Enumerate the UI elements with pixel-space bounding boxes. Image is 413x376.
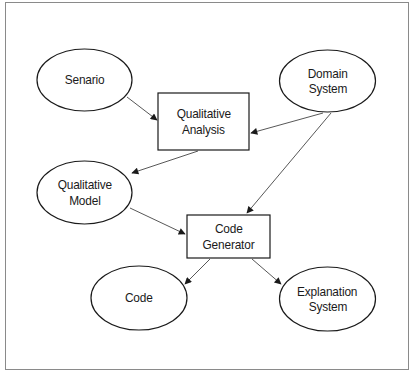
label-line: System bbox=[308, 81, 347, 97]
label-line: Domain bbox=[308, 66, 348, 82]
label-line: Analysis bbox=[182, 122, 225, 138]
label-line: System bbox=[308, 299, 347, 315]
label-senario: Senario bbox=[37, 49, 132, 111]
label-line: Senario bbox=[65, 72, 105, 88]
edge-model-to-generator bbox=[130, 208, 185, 234]
label-domain-system: Domain System bbox=[279, 50, 376, 112]
label-qualitative-model: Qualitative Model bbox=[37, 161, 132, 224]
label-line: Generator bbox=[203, 237, 255, 253]
label-line: Code bbox=[125, 290, 153, 306]
label-code-generator: Code Generator bbox=[187, 215, 270, 258]
edge-analysis-to-model bbox=[132, 151, 198, 173]
label-qualitative-analysis: Qualitative Analysis bbox=[158, 93, 249, 150]
label-line: Code bbox=[215, 221, 243, 237]
edge-domain-to-generator bbox=[247, 113, 331, 213]
edge-domain-to-analysis bbox=[251, 113, 323, 133]
label-explanation-system: Explanation System bbox=[279, 267, 376, 331]
label-code: Code bbox=[91, 266, 187, 330]
edge-generator-to-explanation bbox=[252, 259, 281, 284]
label-line: Explanation bbox=[297, 284, 357, 300]
label-line: Qualitative bbox=[57, 177, 111, 193]
label-line: Model bbox=[69, 193, 100, 209]
edge-generator-to-code bbox=[185, 259, 210, 284]
label-line: Qualitative bbox=[176, 106, 230, 122]
